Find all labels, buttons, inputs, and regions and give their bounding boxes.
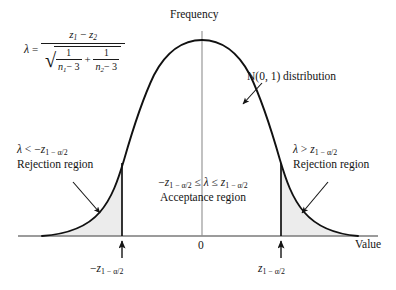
left-condition-lambda: λ [17, 143, 22, 155]
formula-lambda: λ [24, 42, 29, 56]
right-rejection-leader-arrow [302, 182, 328, 213]
left-tick-subscript: 1 − α/2 [101, 267, 123, 276]
acceptance-sub-left: 1 − α/2 [169, 181, 191, 190]
y-axis-label: Frequency [170, 8, 219, 21]
denominator-term-2: 1 n2− 3 [93, 48, 119, 73]
x-axis-label: Value [355, 238, 381, 251]
acceptance-region-label: Acceptance region [133, 191, 273, 204]
term1-rest: − 3 [66, 61, 79, 72]
right-rejection-condition: λ > z1 − α/2 [293, 143, 369, 158]
left-condition-subscript: 1 − α/2 [45, 148, 67, 157]
normal-distribution-hypothesis-test-figure: Frequency λ = z1 − z2 √ 1 n1− 3 + [0, 0, 396, 290]
formula-fraction: z1 − z2 √ 1 n1− 3 + 1 n2− 3 [41, 28, 125, 74]
left-rejection-leader-arrow [73, 182, 100, 213]
term2-rest: − 3 [104, 61, 117, 72]
test-statistic-formula: λ = z1 − z2 √ 1 n1− 3 + [24, 28, 125, 74]
acceptance-sub-right: 1 − α/2 [225, 181, 247, 190]
right-critical-value-label: z1 − α/2 [258, 262, 285, 277]
left-rejection-condition: λ < −z1 − α/2 [17, 143, 93, 158]
origin-tick-label: 0 [198, 239, 204, 252]
acceptance-lambda: λ [204, 176, 209, 188]
left-rejection-region-label: Rejection region [17, 158, 93, 171]
formula-numerator: z1 − z2 [41, 28, 125, 44]
denominator-term-1: 1 n1− 3 [56, 48, 82, 73]
distribution-leader-arrow [243, 83, 262, 104]
right-rejection-region-label: Rejection region [293, 158, 369, 171]
formula-equals: = [32, 43, 38, 55]
term1-numerator: 1 [56, 48, 82, 60]
left-critical-value-label: −z1 − α/2 [90, 262, 123, 277]
distribution-label: N(0, 1) distribution [247, 70, 336, 83]
acceptance-le-2: ≤ [212, 176, 218, 188]
denominator-plus: + [84, 54, 90, 66]
term2-denominator: n2− 3 [93, 60, 119, 74]
acceptance-le-1: ≤ [195, 176, 201, 188]
numerator-z1-sub: 1 [73, 33, 77, 42]
acceptance-region-annotation: −z1 − α/2 ≤ λ ≤ z1 − α/2 Acceptance regi… [133, 176, 273, 204]
term1-denominator: n1− 3 [56, 60, 82, 74]
left-condition-relation: < − [25, 143, 41, 155]
formula-denominator: √ 1 n1− 3 + 1 n2− 3 [41, 44, 125, 73]
right-rejection-region-annotation: λ > z1 − α/2 Rejection region [293, 143, 369, 171]
radical-contents: 1 n1− 3 + 1 n2− 3 [54, 46, 121, 73]
right-condition-relation: > [301, 143, 310, 155]
radical-glyph: √ [45, 53, 56, 67]
square-root: √ 1 n1− 3 + 1 n2− 3 [45, 46, 121, 73]
right-condition-subscript: 1 − α/2 [315, 148, 337, 157]
numerator-minus: − [80, 28, 86, 40]
acceptance-condition: −z1 − α/2 ≤ λ ≤ z1 − α/2 [133, 176, 273, 191]
left-rejection-region-annotation: λ < −z1 − α/2 Rejection region [17, 143, 93, 171]
numerator-z2-sub: 2 [93, 33, 97, 42]
right-tick-subscript: 1 − α/2 [262, 267, 284, 276]
right-condition-lambda: λ [293, 143, 298, 155]
term2-numerator: 1 [93, 48, 119, 60]
